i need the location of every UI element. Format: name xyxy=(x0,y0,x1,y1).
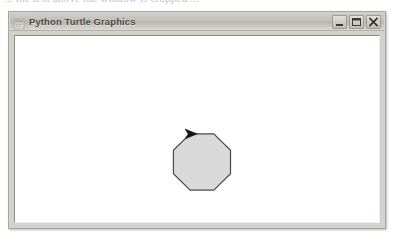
minimize-button[interactable] xyxy=(332,15,347,29)
window-controls xyxy=(332,15,381,29)
maximize-icon xyxy=(350,16,363,28)
maximize-button[interactable] xyxy=(349,15,364,29)
window-title: Python Turtle Graphics xyxy=(29,16,332,27)
close-icon xyxy=(367,16,380,28)
canvas-background xyxy=(15,36,379,222)
turtle-window-icon xyxy=(13,16,25,28)
page-caption-text: ... the text above the window is cropped… xyxy=(4,0,244,4)
close-button[interactable] xyxy=(366,15,381,29)
turtle-drawing-canvas[interactable] xyxy=(15,36,379,222)
window-title-bar[interactable]: Python Turtle Graphics xyxy=(10,13,384,31)
turtle-canvas-frame xyxy=(14,35,380,223)
octagon-shape xyxy=(173,134,230,190)
turtle-graphics-window: Python Turtle Graphics xyxy=(8,11,386,229)
minimize-icon xyxy=(333,16,346,28)
